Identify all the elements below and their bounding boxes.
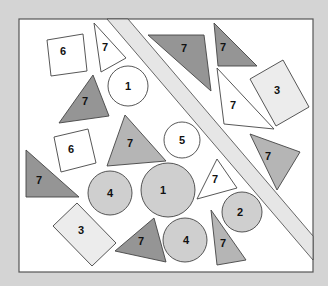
shape-label: 7: [127, 137, 133, 149]
shape-circle-1-gray: [141, 163, 195, 217]
shape-label: 7: [265, 150, 271, 162]
shape-label: 7: [230, 99, 236, 111]
shape-label: 7: [82, 95, 88, 107]
shape-label: 6: [60, 45, 66, 57]
shape-label: 7: [138, 235, 144, 247]
shape-label: 3: [274, 84, 280, 96]
shape-label: 7: [181, 42, 187, 54]
shape-label: 7: [220, 41, 226, 53]
shape-label: 7: [102, 41, 108, 53]
diagram-canvas: 671773777576741723747: [0, 0, 328, 286]
shape-label: 7: [36, 174, 42, 186]
shape-label: 4: [183, 234, 190, 246]
shape-label: 7: [212, 173, 218, 185]
shape-label: 1: [125, 80, 131, 92]
shape-label: 6: [68, 143, 74, 155]
shape-label: 1: [160, 184, 166, 196]
shape-label: 3: [78, 224, 84, 236]
shape-label: 2: [237, 206, 243, 218]
shape-label: 7: [220, 237, 226, 249]
shape-label: 4: [107, 187, 114, 199]
shapes-diagram: 671773777576741723747: [0, 0, 328, 286]
shape-square-6-top: [47, 34, 87, 76]
shape-label: 5: [179, 134, 185, 146]
